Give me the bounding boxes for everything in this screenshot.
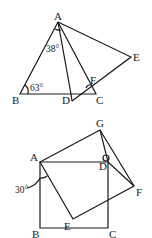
angle-arc-a — [55, 29, 61, 30]
segment-gd — [100, 130, 108, 162]
label-d2: D — [99, 160, 107, 172]
label-b: B — [12, 94, 19, 106]
angle-arc-30 — [40, 176, 47, 178]
label-e2: E — [64, 220, 71, 232]
segment-ae-ed — [58, 22, 131, 101]
label-f2: F — [136, 186, 142, 198]
angle-label-63: 63° — [30, 83, 44, 93]
label-d: D — [62, 94, 70, 106]
segment-ad — [58, 22, 71, 94]
figure-1-triangles: A B C D E F 38° 63° — [12, 10, 140, 106]
segment-d-tail — [71, 94, 72, 101]
label-b2: B — [32, 228, 39, 238]
label-c: C — [96, 94, 103, 106]
angle-label-30: 30° — [15, 185, 29, 195]
label-c2: C — [109, 228, 116, 238]
angle-label-38: 38° — [46, 44, 60, 54]
label-f: F — [90, 74, 96, 86]
figure-2-squares: A B C D E F G 30° — [15, 117, 142, 238]
angle-arc-b — [25, 85, 28, 94]
geometry-diagram: A B C D E F 38° 63° A B C D E F G 30° — [0, 0, 152, 238]
label-a2: A — [30, 151, 38, 163]
label-a: A — [54, 10, 62, 22]
angle-pointer — [27, 178, 40, 188]
square-agfe — [40, 130, 134, 219]
label-e: E — [133, 51, 140, 63]
label-g2: G — [96, 117, 104, 129]
